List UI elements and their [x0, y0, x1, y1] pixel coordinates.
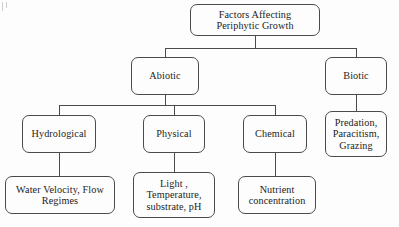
- node-hydrological[interactable]: Hydrological: [22, 115, 96, 153]
- node-root-factors-affecting-periphytic-growth[interactable]: Factors Affecting Periphytic Growth: [190, 4, 320, 36]
- node-physical[interactable]: Physical: [143, 115, 205, 153]
- node-abiotic[interactable]: Abiotic: [131, 57, 199, 95]
- node-biotic[interactable]: Biotic: [325, 57, 387, 95]
- node-predation-paracitism-grazing[interactable]: Predation, Paracitism, Grazing: [325, 111, 387, 157]
- node-chemical[interactable]: Chemical: [243, 115, 307, 153]
- node-light-temperature-substrate-ph[interactable]: Light , Temperature, substrate, pH: [133, 172, 215, 218]
- node-water-velocity-flow-regimes[interactable]: Water Velocity, Flow Regimes: [5, 176, 115, 214]
- scan-artifact-speck: [6, 2, 7, 8]
- scan-artifact-speck: [2, 2, 3, 11]
- diagram-canvas: Factors Affecting Periphytic Growth Abio…: [0, 0, 399, 227]
- node-nutrient-concentration[interactable]: Nutrient concentration: [238, 176, 316, 214]
